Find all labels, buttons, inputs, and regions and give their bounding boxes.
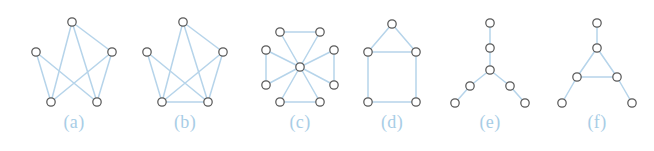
graph-node [296, 63, 304, 71]
graph-node [330, 81, 338, 89]
edge-group [455, 23, 525, 103]
graph-edge [72, 22, 112, 52]
graph-edge [597, 48, 617, 77]
graph-node [506, 82, 514, 90]
graph-diagram-canvas [0, 0, 654, 151]
graph-edge [162, 52, 223, 102]
graph-edge [162, 22, 183, 102]
graph-edge [392, 24, 416, 52]
graph-edge [208, 52, 223, 102]
graph-panel-d [364, 20, 420, 106]
graph-edge [368, 24, 392, 52]
graph-node [593, 19, 601, 27]
graph-panel-a [32, 18, 116, 106]
graph-node [68, 18, 76, 26]
graph-edge [147, 52, 208, 102]
panel-label-b: (b) [174, 113, 196, 131]
graph-node [108, 48, 116, 56]
graph-node [628, 99, 636, 107]
graph-node [316, 98, 324, 106]
graph-edge [97, 52, 112, 102]
panel-label-e: (e) [480, 113, 501, 131]
graph-edge [51, 52, 112, 102]
graph-node [558, 99, 566, 107]
graph-node [143, 48, 151, 56]
graph-panel-b [143, 18, 227, 106]
graph-node [573, 73, 581, 81]
graph-edge [36, 52, 51, 102]
graph-node [451, 99, 459, 107]
graph-node [412, 98, 420, 106]
graph-node [204, 98, 212, 106]
edge-group [36, 22, 112, 102]
graph-node [179, 18, 187, 26]
graph-node [262, 46, 270, 54]
graph-edge [183, 22, 208, 102]
graph-node [276, 98, 284, 106]
graph-panel-c [262, 28, 338, 106]
edge-group [368, 24, 416, 102]
graph-edge [72, 22, 97, 102]
graph-node [412, 48, 420, 56]
graph-node [158, 98, 166, 106]
graph-node [276, 28, 284, 36]
graph-node [47, 98, 55, 106]
node-group [364, 20, 420, 106]
node-group [143, 18, 227, 106]
panel-label-d: (d) [381, 113, 403, 131]
edge-group [562, 23, 632, 103]
graph-node [32, 48, 40, 56]
panel-label-a: (a) [64, 113, 85, 131]
graph-node [593, 44, 601, 52]
graph-node [93, 98, 101, 106]
graph-edge [183, 22, 223, 52]
graph-node [613, 73, 621, 81]
graph-node [316, 28, 324, 36]
graph-edge [36, 52, 97, 102]
graph-edge [577, 48, 597, 77]
graph-node [486, 19, 494, 27]
graph-node [364, 48, 372, 56]
graph-panel-e [451, 19, 529, 107]
graph-panel-f [558, 19, 636, 107]
graph-node [364, 98, 372, 106]
graph-node [486, 44, 494, 52]
graph-node [330, 46, 338, 54]
panel-label-c: (c) [290, 113, 311, 131]
node-group [262, 28, 338, 106]
graph-node [388, 20, 396, 28]
node-group [32, 18, 116, 106]
graph-node [262, 81, 270, 89]
figure-container: (a)(b)(c)(d)(e)(f) [0, 0, 654, 151]
panel-label-f: (f) [588, 113, 607, 131]
graph-edge [147, 52, 162, 102]
graph-node [219, 48, 227, 56]
graph-node [486, 66, 494, 74]
edge-group [147, 22, 223, 102]
graph-node [466, 82, 474, 90]
graph-edge [51, 22, 72, 102]
graph-node [521, 99, 529, 107]
